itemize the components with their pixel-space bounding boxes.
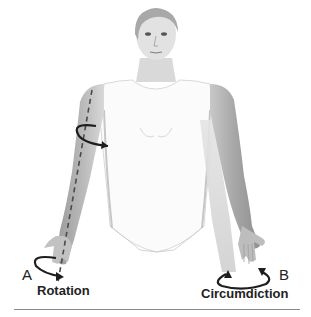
- bottom-rule: [14, 309, 300, 310]
- anatomy-figure: A Rotation B Circumdiction: [0, 0, 311, 317]
- arm-rotation: [44, 84, 108, 282]
- head: [135, 8, 178, 60]
- caption-rotation: Rotation: [37, 283, 90, 298]
- panel-letter-a: A: [22, 266, 32, 283]
- caption-circumdiction: Circumdiction: [201, 286, 288, 301]
- panel-letter-b: B: [279, 266, 289, 283]
- figure-illustration: [0, 0, 311, 317]
- torso: [100, 80, 214, 252]
- neck: [136, 58, 176, 82]
